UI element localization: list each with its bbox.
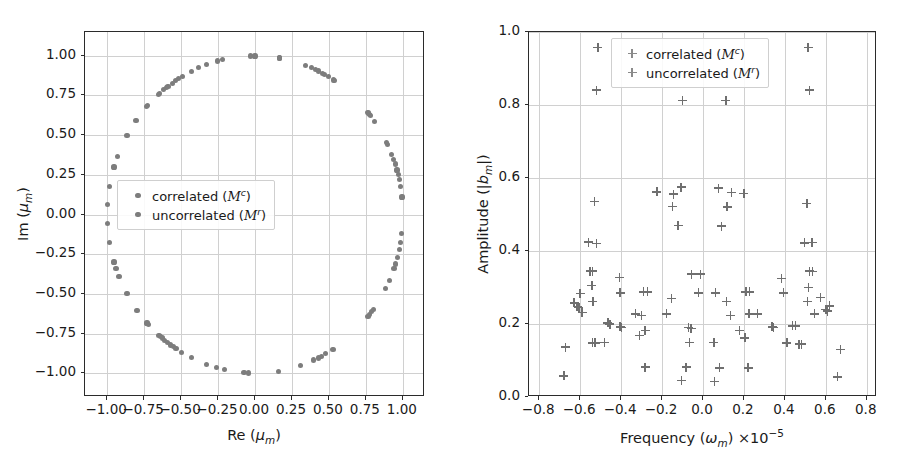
data-point: [391, 266, 396, 271]
y-axis-title-right: Amplitude (|bm|): [476, 154, 493, 273]
panel-amplitude-vs-frequency: correlated (Mc)uncorrelated (Mr) −0.8−0.…: [460, 0, 908, 470]
data-point: [107, 184, 112, 189]
y-tick-label: 0.00: [0, 207, 76, 221]
x-tick: [365, 396, 366, 400]
x-axis-title-right: Frequency (ωm) ×10−5: [620, 428, 784, 448]
legend-marker-glyph: [135, 193, 140, 198]
y-tick: [81, 174, 85, 175]
y-tick-label: 0.25: [0, 167, 76, 181]
legend-label: correlated (Mc): [646, 46, 745, 61]
data-point: [111, 259, 116, 264]
x-tick: [825, 396, 826, 400]
data-point: [398, 240, 403, 245]
data-point: [383, 286, 388, 291]
y-tick-label: 1.00: [0, 48, 76, 62]
y-tick-label: −1.00: [0, 365, 76, 379]
x-tick-label: 0.25: [276, 403, 306, 417]
data-point: [189, 69, 194, 74]
data-point: [105, 202, 110, 207]
data-point: [124, 291, 129, 296]
y-tick-label: 1.0: [460, 24, 520, 38]
legend-left: correlated (Mc)uncorrelated (Mr): [117, 180, 275, 230]
data-point: [215, 58, 220, 63]
x-tick-label: 0.6: [814, 403, 835, 417]
y-tick: [81, 214, 85, 215]
x-tick-label: 0.50: [313, 403, 343, 417]
y-tick-label: 0.75: [0, 88, 76, 102]
x-tick: [254, 396, 255, 400]
x-tick: [143, 396, 144, 400]
x-tick: [620, 396, 621, 400]
data-point: [246, 370, 251, 375]
plot-area-right: correlated (Mc)uncorrelated (Mr): [528, 31, 876, 396]
data-point: [393, 161, 398, 166]
data-point: [371, 307, 376, 312]
x-tick-label: −0.4: [604, 403, 637, 417]
y-tick: [525, 177, 529, 178]
data-point: [133, 118, 138, 123]
x-tick: [291, 396, 292, 400]
plot-area-left: correlated (Mc)uncorrelated (Mr): [84, 31, 424, 396]
plus-marker-icon: [618, 47, 646, 61]
legend-entry: uncorrelated (Mr): [124, 205, 266, 224]
legend-marker-glyph: [618, 66, 646, 80]
x-tick-label: −0.25: [196, 403, 237, 417]
data-point: [156, 92, 161, 97]
x-tick-label: 0.75: [350, 403, 380, 417]
data-point: [214, 365, 219, 370]
x-tick: [402, 396, 403, 400]
y-tick-label: −0.75: [0, 326, 76, 340]
x-tick-label: 0.4: [773, 403, 794, 417]
data-point: [276, 369, 281, 374]
y-tick-label: 0.8: [460, 97, 520, 111]
data-point: [196, 65, 201, 70]
x-tick-label: −0.8: [522, 403, 555, 417]
x-tick-label: 0.8: [855, 403, 876, 417]
y-tick-label: −0.25: [0, 246, 76, 260]
y-tick: [525, 250, 529, 251]
x-tick-label: −0.50: [159, 403, 200, 417]
y-tick: [81, 55, 85, 56]
data-point: [252, 53, 257, 58]
x-tick: [106, 396, 107, 400]
x-tick-label: 1.00: [387, 403, 417, 417]
y-tick: [81, 333, 85, 334]
legend-label: uncorrelated (Mr): [152, 207, 266, 222]
legend-right: correlated (Mc)uncorrelated (Mr): [611, 38, 769, 88]
x-tick: [217, 396, 218, 400]
y-tick: [81, 293, 85, 294]
legend-label: correlated (Mc): [152, 188, 251, 203]
x-tick: [784, 396, 785, 400]
x-tick-label: −1.00: [85, 403, 126, 417]
y-tick: [525, 396, 529, 397]
data-point: [398, 184, 403, 189]
data-point: [387, 278, 392, 283]
x-tick-label: 0.0: [691, 403, 712, 417]
data-point: [309, 65, 314, 70]
data-point: [331, 77, 336, 82]
data-point: [384, 140, 389, 145]
x-tick: [328, 396, 329, 400]
legend-entry: correlated (Mc): [618, 44, 760, 63]
data-point: [220, 57, 225, 62]
data-point: [330, 347, 335, 352]
data-point: [107, 240, 112, 245]
data-point: [105, 221, 110, 226]
data-point: [115, 154, 120, 159]
data-point: [179, 350, 184, 355]
x-tick-label: −0.75: [122, 403, 163, 417]
legend-marker-glyph: [618, 47, 646, 61]
y-tick-label: 0.2: [460, 316, 520, 330]
data-point: [116, 274, 121, 279]
y-tick-label: −0.50: [0, 286, 76, 300]
plus-marker-icon: [618, 66, 646, 80]
data-point: [323, 351, 328, 356]
x-tick-label: 0.00: [239, 403, 269, 417]
data-point: [298, 363, 303, 368]
y-tick-label: 0.50: [0, 127, 76, 141]
y-tick: [81, 372, 85, 373]
figure-canvas: correlated (Mc)uncorrelated (Mr) −1.00−0…: [0, 0, 908, 470]
x-tick-label: −0.6: [563, 403, 596, 417]
data-point: [277, 55, 282, 60]
data-point: [399, 231, 404, 236]
